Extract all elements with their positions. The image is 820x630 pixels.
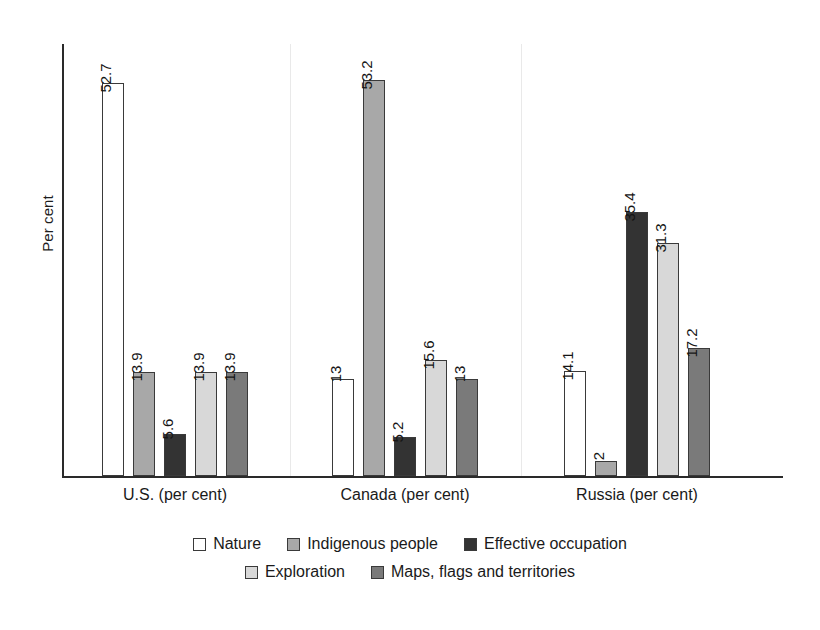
x-axis-line (62, 476, 783, 478)
legend-label: Effective occupation (484, 536, 627, 552)
bar[interactable] (657, 243, 679, 476)
bar-value-label: 14.1 (560, 351, 575, 380)
bar[interactable] (332, 379, 354, 476)
bar-value-label: 13 (452, 366, 467, 383)
bar[interactable] (564, 371, 586, 476)
bar-value-label: 52.7 (98, 64, 113, 93)
legend-row: NatureIndigenous peopleEffective occupat… (0, 530, 820, 558)
legend-swatch-icon (287, 538, 300, 551)
bar[interactable] (425, 360, 447, 476)
plot-area: 52.713.95.613.913.91353.25.215.61314.123… (64, 44, 783, 476)
bar-value-label: 31.3 (653, 223, 668, 252)
bar[interactable] (363, 80, 385, 476)
legend-item[interactable]: Exploration (245, 564, 345, 580)
bar[interactable] (626, 212, 648, 476)
bar[interactable] (595, 461, 617, 476)
legend-item[interactable]: Indigenous people (287, 536, 438, 552)
bar[interactable] (133, 372, 155, 476)
x-axis-label-1: U.S. (per cent) (75, 486, 275, 504)
bar-value-label: 15.6 (421, 340, 436, 369)
legend-item[interactable]: Effective occupation (464, 536, 627, 552)
y-axis-title: Per cent (39, 154, 56, 294)
bar[interactable] (226, 372, 248, 476)
x-axis-label-2: Canada (per cent) (305, 486, 505, 504)
bar[interactable] (164, 434, 186, 476)
legend-label: Indigenous people (307, 536, 438, 552)
legend-swatch-icon (464, 538, 477, 551)
legend-label: Maps, flags and territories (391, 564, 575, 580)
bar-value-label: 5.6 (160, 419, 175, 440)
bar[interactable] (195, 372, 217, 476)
bar[interactable] (394, 437, 416, 476)
legend-swatch-icon (371, 566, 384, 579)
bar-value-label: 17.2 (684, 328, 699, 357)
legend-item[interactable]: Maps, flags and territories (371, 564, 575, 580)
bar-chart: Per cent 52.713.95.613.913.91353.25.215.… (0, 0, 820, 630)
legend-swatch-icon (245, 566, 258, 579)
legend-label: Exploration (265, 564, 345, 580)
bar[interactable] (102, 83, 124, 476)
bar[interactable] (456, 379, 478, 476)
x-axis-label-3: Russia (per cent) (537, 486, 737, 504)
legend-row: ExplorationMaps, flags and territories (0, 558, 820, 586)
bar-value-label: 5.2 (390, 422, 405, 443)
bar-value-label: 13.9 (129, 353, 144, 382)
bar-value-label: 13 (328, 366, 343, 383)
bar-value-label: 2 (591, 452, 606, 460)
bar-value-label: 53.2 (359, 60, 374, 89)
legend-swatch-icon (193, 538, 206, 551)
chart-legend: NatureIndigenous peopleEffective occupat… (0, 530, 820, 586)
bar-value-label: 35.4 (622, 193, 637, 222)
bar-value-label: 13.9 (222, 353, 237, 382)
bar-value-label: 13.9 (191, 353, 206, 382)
legend-item[interactable]: Nature (193, 536, 261, 552)
legend-label: Nature (213, 536, 261, 552)
bar[interactable] (688, 348, 710, 476)
